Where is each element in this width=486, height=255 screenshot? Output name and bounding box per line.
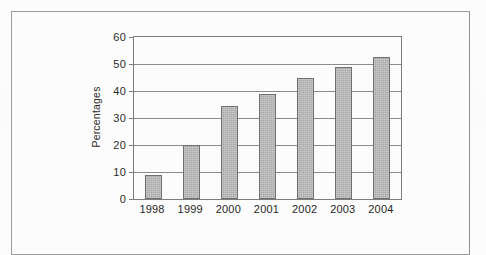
- y-axis-tick-label: 50: [113, 58, 126, 70]
- x-axis-tick-label: 2002: [285, 203, 325, 215]
- y-axis-tick-label: 60: [113, 31, 126, 43]
- y-axis-tick-label: 10: [113, 166, 126, 178]
- y-axis-tick-label: 30: [113, 112, 126, 124]
- bar-2003: [335, 67, 352, 199]
- y-axis-tick: [129, 118, 134, 119]
- gridline: [134, 91, 401, 92]
- y-axis-tick-label: 20: [113, 139, 126, 151]
- bar-2004: [373, 57, 390, 199]
- x-axis-tick-label: 1999: [170, 203, 210, 215]
- bar-1999: [183, 145, 200, 199]
- y-axis-tick: [129, 91, 134, 92]
- y-axis-title-label: Percentages: [90, 86, 102, 147]
- y-axis-tick: [129, 64, 134, 65]
- x-axis-tick-label: 1998: [132, 203, 172, 215]
- y-axis-tick: [129, 199, 134, 200]
- y-axis-title: Percentages: [88, 36, 104, 198]
- y-axis-tick-label: 40: [113, 85, 126, 97]
- x-axis-tick-label: 2001: [247, 203, 287, 215]
- y-axis-tick: [129, 172, 134, 173]
- y-axis-tick: [129, 37, 134, 38]
- bar-2000: [221, 106, 238, 199]
- x-axis-tick-label: 2000: [208, 203, 248, 215]
- x-axis-tick-label: 2003: [323, 203, 363, 215]
- y-axis-tick-label: 0: [120, 193, 126, 205]
- plot-area: 0102030405060: [133, 36, 402, 200]
- bar-1998: [145, 175, 162, 199]
- y-axis-tick: [129, 145, 134, 146]
- bar-2002: [297, 78, 314, 200]
- x-axis-tick-label: 2004: [361, 203, 401, 215]
- bar-2001: [259, 94, 276, 199]
- gridline: [134, 64, 401, 65]
